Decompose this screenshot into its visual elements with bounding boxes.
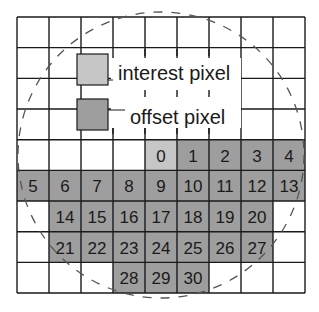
cell-number: 5 xyxy=(28,177,37,196)
cell-number: 19 xyxy=(216,208,235,227)
cell-number: 3 xyxy=(252,147,261,166)
cell-number: 22 xyxy=(88,239,107,258)
cell-number: 2 xyxy=(220,147,229,166)
cell-number: 12 xyxy=(248,177,267,196)
cell-number: 17 xyxy=(152,208,171,227)
cell-number: 7 xyxy=(92,177,101,196)
cell-number: 29 xyxy=(152,269,171,288)
cell-number: 16 xyxy=(120,208,139,227)
cell-number: 25 xyxy=(184,239,203,258)
cell-number: 26 xyxy=(216,239,235,258)
cell-number: 21 xyxy=(56,239,75,258)
cell-number: 28 xyxy=(120,269,139,288)
cell-number: 11 xyxy=(216,177,234,196)
cell-number: 10 xyxy=(184,177,203,196)
cell-number: 24 xyxy=(152,239,171,258)
offset-pixel-swatch xyxy=(77,99,108,130)
cell-number: 8 xyxy=(124,177,133,196)
cell-number: 15 xyxy=(88,208,107,227)
cell-number: 0 xyxy=(156,147,165,166)
interest-pixel-swatch xyxy=(77,54,108,85)
interest-pixel-label: interest pixel xyxy=(118,62,230,84)
cell-number: 18 xyxy=(184,208,203,227)
offset-pixel-label: offset pixel xyxy=(130,106,225,128)
cell-number: 27 xyxy=(248,239,267,258)
pixel-offset-diagram: 0123456789101112131415161718192021222324… xyxy=(0,0,319,312)
cell-number: 13 xyxy=(280,177,299,196)
cell-number: 4 xyxy=(284,147,293,166)
cell-number: 1 xyxy=(188,147,197,166)
cell-number: 20 xyxy=(248,208,267,227)
cell-number: 9 xyxy=(156,177,165,196)
cell-number: 14 xyxy=(56,208,75,227)
cell-number: 30 xyxy=(184,269,203,288)
cell-number: 23 xyxy=(120,239,139,258)
diagram-canvas: 0123456789101112131415161718192021222324… xyxy=(0,0,319,312)
cell-number: 6 xyxy=(60,177,69,196)
